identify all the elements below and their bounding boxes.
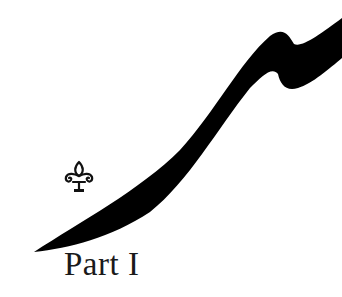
brush-stroke-decoration: [0, 0, 342, 297]
part-title: Part I: [64, 248, 139, 281]
fleur-de-lis-icon: [63, 160, 95, 194]
